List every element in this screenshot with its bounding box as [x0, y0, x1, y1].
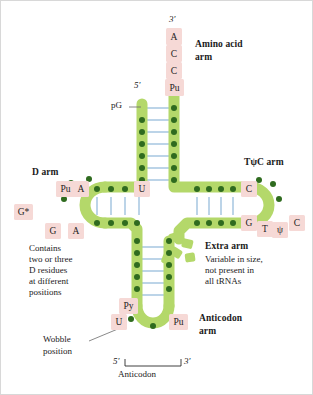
d-arm-note-5: positions: [29, 287, 62, 297]
d-arm-note-3: D residues: [29, 265, 67, 275]
d-arm-label: D arm: [32, 167, 59, 178]
trna-diagram: A C C Pu 3' 5' pG Amino acid arm D arm P…: [0, 0, 313, 395]
wobble-position-label-1: Wobble: [43, 334, 71, 344]
backbone-5prime-strand: [105, 104, 142, 187]
anticodon-arm-label-2: arm: [199, 326, 216, 337]
base-pu-anticodon: Pu: [169, 314, 188, 330]
five-prime-label: 5': [134, 80, 140, 90]
base-a-d-loop: A: [68, 223, 84, 239]
extra-arm-note-2: not present in: [205, 265, 254, 275]
rna-backbone: [85, 96, 269, 323]
wobble-position-label-2: position: [43, 346, 72, 356]
anticodon-five-prime: 5': [113, 356, 119, 366]
anticodon-bracket-label: Anticodon: [118, 369, 156, 379]
base-c1-3prime: C: [166, 45, 182, 62]
base-g-tpsic: G: [241, 215, 257, 231]
base-pu-3prime: Pu: [165, 79, 184, 96]
base-c2-3prime: C: [166, 62, 182, 79]
anticodon-three-prime: 3': [184, 356, 190, 366]
d-arm-note-4: at different: [29, 276, 69, 286]
anticodon-arm-label: Anticodon: [199, 313, 242, 324]
anticodon-bracket: [125, 359, 181, 366]
extra-arm-note-3: all tRNAs: [205, 276, 241, 286]
backbone-d-return: [105, 223, 137, 306]
backbone-tpsic-return: [179, 223, 249, 239]
base-a-d-stem: A: [73, 181, 89, 197]
three-prime-label: 3': [169, 14, 175, 24]
base-gstar-d-loop: G*: [14, 204, 33, 220]
base-a-3prime: A: [166, 28, 182, 45]
base-u-junction: U: [134, 181, 150, 197]
base-pg-5prime: pG: [111, 100, 122, 110]
amino-acid-arm-label-2: arm: [195, 52, 212, 63]
base-g-d-loop: G: [45, 223, 61, 239]
d-arm-note-1: Contains: [29, 243, 61, 253]
extra-arm-note-1: Variable in size,: [205, 254, 263, 264]
base-py-anticodon: Py: [119, 298, 138, 314]
backbone-3prime-strand: [174, 96, 249, 187]
base-psi-tpsic: ψ: [272, 222, 288, 238]
backbone-anticodon-loop: [137, 306, 169, 323]
base-c-tpsic-lower: C: [289, 215, 305, 231]
amino-acid-arm-label: Amino acid: [195, 39, 243, 50]
base-t-tpsic: T: [257, 221, 273, 237]
extra-arm-label: Extra arm: [205, 241, 248, 252]
d-arm-note-2: two or three: [29, 254, 72, 264]
base-c-tpsic-upper: C: [241, 181, 257, 197]
base-u-wobble: U: [111, 314, 127, 330]
tpsic-arm-label: TψC arm: [244, 157, 284, 168]
